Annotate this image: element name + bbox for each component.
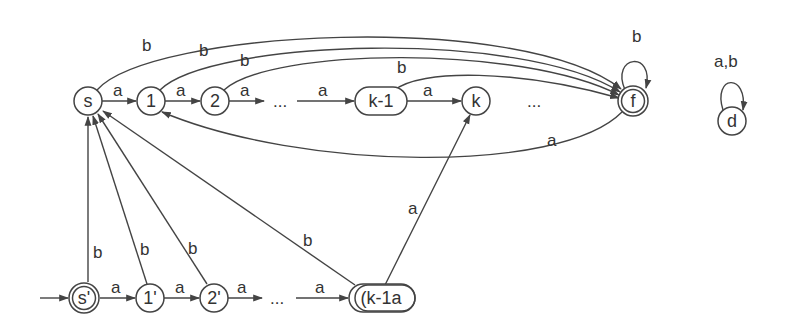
edge-2p-s: b xyxy=(98,114,207,284)
edge-s-1: a xyxy=(102,81,136,101)
state-label: d xyxy=(727,111,737,131)
state-label: 1 xyxy=(146,91,156,111)
edge-label: a xyxy=(408,199,418,218)
edge-label: b xyxy=(140,240,149,259)
state-label: s' xyxy=(78,288,90,308)
ellipsis-top-1: ... xyxy=(273,92,287,111)
state-2[interactable]: 2 xyxy=(201,87,229,115)
edge-1p-2p: a xyxy=(164,278,199,298)
edge-f-f: b xyxy=(622,27,647,90)
edge-label: a xyxy=(176,81,186,100)
automaton-diagram: a a a ... a a ... b b b b b xyxy=(0,0,788,334)
state-s[interactable]: s xyxy=(74,87,102,115)
edge-k1-k: a xyxy=(407,81,461,101)
ellipsis-bottom: ... xyxy=(270,289,284,308)
edge-1-2: a xyxy=(165,81,200,101)
state-k[interactable]: k xyxy=(462,87,490,115)
state-s-prime-initial-accepting[interactable]: s' xyxy=(69,283,99,313)
edge-2-f: b xyxy=(224,51,619,95)
edge-label: b xyxy=(303,231,312,250)
edge-k1a-k: a xyxy=(385,115,470,285)
edge-label: a xyxy=(318,81,328,100)
ellipsis-top-2: ... xyxy=(527,92,541,111)
edge-label: a xyxy=(237,278,247,297)
state-k-1[interactable]: k-1 xyxy=(355,87,407,115)
edge-label: a,b xyxy=(714,52,738,71)
state-1[interactable]: 1 xyxy=(137,87,165,115)
edge-label: b xyxy=(397,58,406,77)
state-label: 2 xyxy=(210,91,220,111)
edge-label: a xyxy=(547,131,557,150)
edge-label: b xyxy=(199,41,208,60)
edge-label: a xyxy=(175,278,185,297)
edge-sp-s: b xyxy=(88,117,102,282)
edge-label: b xyxy=(93,243,102,262)
edge-label: a xyxy=(113,81,123,100)
edge-d-d: a,b xyxy=(714,52,743,110)
state-2-prime[interactable]: 2' xyxy=(200,284,228,312)
edge-label: a xyxy=(240,81,250,100)
state-label: s xyxy=(84,91,93,111)
edge-label: a xyxy=(315,278,325,297)
edge-label: a xyxy=(423,81,433,100)
edge-1-f: b xyxy=(160,41,620,92)
edge-label: b xyxy=(632,27,641,46)
state-label: 2' xyxy=(207,288,220,308)
edge-label: a xyxy=(111,278,121,297)
edge-label: b xyxy=(188,239,197,258)
edge-2-dots: a xyxy=(229,81,264,101)
state-label: k-1 xyxy=(368,91,393,111)
edge-label: b xyxy=(142,36,151,55)
state-d[interactable]: d xyxy=(718,107,746,135)
state-1-prime[interactable]: 1' xyxy=(136,284,164,312)
state-label: 1' xyxy=(143,288,156,308)
edge-label: b xyxy=(240,51,249,70)
edge-2p-dots: a xyxy=(228,278,262,298)
state-label: k xyxy=(472,91,482,111)
edge-dots-k1a: a xyxy=(296,278,348,298)
edge-dots-k1: a xyxy=(297,81,354,101)
state-label: (k-1a xyxy=(360,288,402,308)
state-k-1-a[interactable]: (k-1a xyxy=(349,284,415,312)
state-f-accepting[interactable]: f xyxy=(618,86,648,116)
edge-sp-1p: a xyxy=(100,278,135,298)
edge-f-1: a xyxy=(162,112,622,157)
